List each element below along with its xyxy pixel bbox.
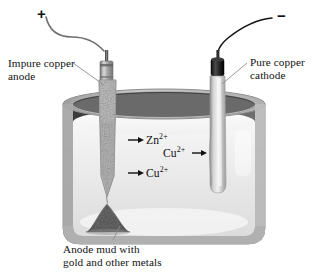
anode-mud-caption-line2: gold and other metals <box>63 256 162 269</box>
zn-ion-species: Zn <box>146 134 159 147</box>
cu-ion-cathode-charge: 2+ <box>177 145 186 154</box>
anode-mud-caption-line1: Anode mud with <box>63 243 162 256</box>
cathode-wire[interactable] <box>218 18 272 52</box>
pure-copper-cathode-label: Pure copper cathode <box>250 56 305 82</box>
cu-ion-anode-label: Cu2+ <box>146 167 168 181</box>
pure-copper-cathode-label-line1: Pure copper <box>250 56 305 69</box>
negative-terminal-label: − <box>277 7 286 25</box>
impure-copper-anode-label: Impure copper anode <box>8 57 75 83</box>
cu-ion-cathode-label: Cu2+ <box>163 147 185 161</box>
anode-wire[interactable] <box>46 17 104 51</box>
cu-ion-anode-species: Cu <box>146 167 160 180</box>
anode-leader-line <box>73 63 104 85</box>
cu-ion-anode-charge: 2+ <box>160 165 169 174</box>
impure-copper-anode-label-line2: anode <box>8 70 75 83</box>
pure-copper-cathode-label-line2: cathode <box>250 69 305 82</box>
anode-mud-caption: Anode mud with gold and other metals <box>63 243 162 269</box>
impure-copper-anode-label-line1: Impure copper <box>8 57 75 70</box>
tank-glass-highlight <box>235 130 251 176</box>
zn-ion-charge: 2+ <box>159 132 168 141</box>
cu-ion-cathode-species: Cu <box>163 147 177 160</box>
anode-cap-band-lower <box>100 76 113 78</box>
anode-cap-band <box>100 64 113 66</box>
cathode-leader-line <box>222 63 247 84</box>
zn-ion-label: Zn2+ <box>146 134 168 148</box>
cathode-cap-top <box>211 57 224 61</box>
anode-plate-upper-texture <box>99 80 116 122</box>
anode-connector-rod <box>105 50 108 62</box>
anode-mud-base-shadow <box>86 229 130 235</box>
positive-terminal-label: + <box>37 5 46 23</box>
electrorefining-diagram: + − Impure copper anode Pure copper cath… <box>0 0 322 276</box>
